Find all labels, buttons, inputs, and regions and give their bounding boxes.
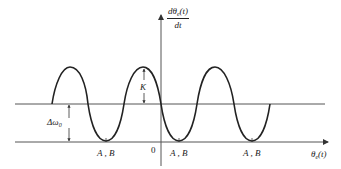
offset-label-sub: 0	[59, 122, 62, 128]
offset-label: Δω0	[47, 118, 62, 128]
amplitude-label: K	[140, 83, 146, 92]
offset-label-main: Δω	[47, 117, 59, 127]
equilibrium-label-2: A , B	[170, 149, 188, 158]
equilibrium-label-3: A , B	[243, 149, 261, 158]
y-label-tail: (t)	[180, 6, 189, 16]
y-axis-label: dθe(t) dt	[167, 7, 189, 30]
y-label-numerator: dθ	[168, 6, 177, 16]
origin-label: 0	[151, 146, 156, 155]
y-label-denominator: dt	[167, 19, 189, 30]
equilibrium-label-1: A , B	[97, 149, 115, 158]
x-axis-label: θe(t)	[311, 150, 327, 160]
x-label-tail: (t)	[318, 149, 327, 159]
